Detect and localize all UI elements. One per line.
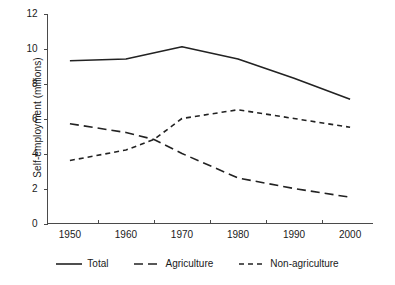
plot-canvas xyxy=(0,0,395,285)
y-tick-label: 2 xyxy=(16,184,38,194)
legend-swatch-short-dash xyxy=(239,260,265,268)
x-tick-label: 1970 xyxy=(162,230,202,240)
series-line-agriculture xyxy=(70,124,350,198)
y-tick-label: 0 xyxy=(16,219,38,229)
x-tick-label: 2000 xyxy=(330,230,370,240)
legend-label: Agriculture xyxy=(165,258,213,269)
x-tick-label: 1990 xyxy=(274,230,314,240)
legend-swatch-long-dash xyxy=(134,260,160,268)
series-line-non-agriculture xyxy=(70,110,350,161)
legend-item-agriculture[interactable]: Agriculture xyxy=(134,258,213,269)
y-tick-label: 12 xyxy=(16,9,38,19)
y-tick-label: 8 xyxy=(16,79,38,89)
x-tick-label: 1980 xyxy=(218,230,258,240)
y-tick-marks xyxy=(44,15,48,225)
y-tick-label: 10 xyxy=(16,44,38,54)
x-tick-label: 1950 xyxy=(50,230,90,240)
x-tick-label: 1960 xyxy=(106,230,146,240)
chart-legend: TotalAgricultureNon-agriculture xyxy=(0,258,395,269)
y-tick-label: 6 xyxy=(16,114,38,124)
legend-label: Non-agriculture xyxy=(270,258,338,269)
data-series xyxy=(70,47,350,198)
legend-item-non-agriculture[interactable]: Non-agriculture xyxy=(239,258,338,269)
x-tick-marks xyxy=(99,220,323,224)
legend-label: Total xyxy=(87,258,108,269)
legend-swatch-solid xyxy=(56,260,82,268)
chart-figure: Self-employment (millions) 121086420 195… xyxy=(0,0,395,285)
axis-lines xyxy=(48,14,373,224)
legend-item-total[interactable]: Total xyxy=(56,258,108,269)
series-line-total xyxy=(70,47,350,100)
y-tick-label: 4 xyxy=(16,149,38,159)
